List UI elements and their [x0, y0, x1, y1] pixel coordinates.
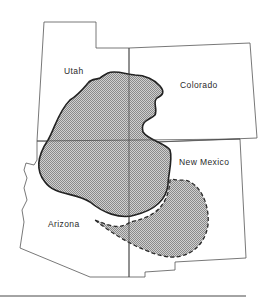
label-utah: Utah — [64, 66, 84, 76]
label-colorado: Colorado — [180, 80, 218, 90]
label-new-mexico: New Mexico — [179, 157, 229, 167]
solid-boundary-region — [39, 72, 171, 217]
four-corners-map — [0, 0, 269, 300]
label-arizona: Arizona — [48, 219, 80, 229]
